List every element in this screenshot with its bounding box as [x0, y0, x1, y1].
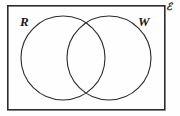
- set-r-label: R: [20, 15, 29, 28]
- set-w-label: W: [138, 15, 150, 28]
- universal-set-label: ℰ: [166, 2, 172, 12]
- set-r-circle: [21, 16, 105, 100]
- venn-diagram-figure: R W ℰ: [0, 0, 180, 116]
